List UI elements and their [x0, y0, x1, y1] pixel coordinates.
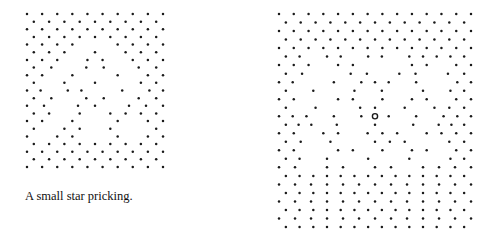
pin-dot	[455, 98, 458, 101]
figure-caption: A small star pricking.	[25, 189, 133, 204]
pin-dot	[450, 124, 453, 127]
pin-dot	[307, 30, 310, 33]
pin-dot	[381, 13, 384, 16]
pin-dot	[124, 20, 127, 23]
pin-dot	[50, 66, 53, 69]
pin-dot	[358, 200, 361, 203]
pin-dot	[63, 51, 66, 54]
pin-dot	[56, 13, 59, 16]
pin-dot	[367, 55, 370, 58]
pin-dot	[26, 43, 29, 46]
pin-dot	[124, 112, 127, 115]
pin-dot	[367, 175, 370, 178]
pin-dot	[433, 106, 436, 109]
pin-dot	[342, 166, 345, 169]
pin-dot	[322, 30, 325, 33]
pin-dot	[448, 21, 451, 24]
pin-dot	[322, 47, 325, 50]
pin-dot	[285, 175, 288, 178]
pin-dot	[155, 143, 158, 146]
pin-dot	[33, 82, 36, 85]
pin-dot	[438, 183, 441, 186]
pin-dot	[109, 143, 112, 146]
pin-dot	[470, 115, 473, 118]
pin-dot	[336, 124, 339, 127]
pin-dot	[437, 124, 440, 127]
pin-dot	[293, 98, 296, 101]
pin-dot	[310, 183, 313, 186]
pin-dot	[359, 21, 362, 24]
pin-dot	[463, 89, 466, 92]
pin-dot	[109, 36, 112, 39]
pin-dot	[109, 128, 112, 131]
pin-dot	[422, 217, 425, 220]
pin-dot	[137, 97, 140, 100]
pin-dot	[422, 55, 425, 58]
pin-dot	[78, 158, 81, 161]
pin-dot	[390, 183, 393, 186]
pin-dot	[455, 132, 458, 135]
pin-dot	[26, 89, 29, 92]
pin-dot	[94, 105, 97, 108]
pin-dot	[80, 89, 83, 92]
pin-dot	[470, 183, 473, 186]
pin-dot	[124, 36, 127, 39]
pin-dot	[41, 59, 44, 62]
pin-dot	[86, 150, 89, 153]
pin-dot	[56, 28, 59, 31]
pin-dot	[374, 183, 377, 186]
pin-dot	[366, 30, 369, 33]
pin-dot	[285, 209, 288, 212]
pin-dot	[94, 158, 97, 161]
pin-dot	[86, 13, 89, 16]
pin-dot	[449, 89, 452, 92]
pin-dot	[403, 38, 406, 41]
pin-dot	[278, 217, 281, 220]
pin-dot	[56, 43, 59, 46]
pin-dot	[71, 28, 74, 31]
pin-dot	[278, 30, 281, 33]
pin-dot	[422, 200, 425, 203]
pin-dot	[33, 20, 36, 23]
pin-dot	[454, 166, 457, 169]
pin-dot	[140, 158, 143, 161]
pin-dot	[116, 150, 119, 153]
pin-dot	[448, 38, 451, 41]
pin-dot	[155, 128, 158, 131]
pin-dot	[293, 132, 296, 135]
pin-dot	[396, 132, 399, 135]
pin-dot	[463, 209, 466, 212]
pin-dot	[455, 30, 458, 33]
pin-dot	[121, 89, 124, 92]
pin-dot	[463, 158, 466, 161]
pin-dot	[433, 38, 436, 41]
pin-dot	[333, 81, 336, 84]
pin-dot	[78, 128, 81, 131]
pin-dot	[155, 112, 158, 115]
pin-dot	[396, 13, 399, 16]
pin-dot	[435, 192, 438, 195]
pin-dot	[366, 132, 369, 135]
pin-dot	[162, 150, 165, 153]
pin-dot	[307, 13, 310, 16]
pin-dot	[381, 89, 384, 92]
pin-dot	[455, 47, 458, 50]
pin-dot	[312, 209, 315, 212]
pin-dot	[435, 209, 438, 212]
pin-dot	[162, 166, 165, 169]
pin-dot	[449, 55, 452, 58]
pin-dot	[390, 200, 393, 203]
pin-dot	[314, 106, 317, 109]
pin-dot	[360, 115, 363, 118]
pin-dot	[43, 105, 46, 108]
pin-dot	[310, 124, 313, 127]
pin-dot	[291, 115, 294, 118]
pin-dot	[394, 175, 397, 178]
pin-dot	[398, 72, 401, 75]
pin-dot	[470, 47, 473, 50]
pin-dot	[132, 28, 135, 31]
pin-dot	[26, 28, 29, 31]
pin-dot	[359, 38, 362, 41]
pin-dot	[128, 105, 131, 108]
pin-dot	[293, 30, 296, 33]
